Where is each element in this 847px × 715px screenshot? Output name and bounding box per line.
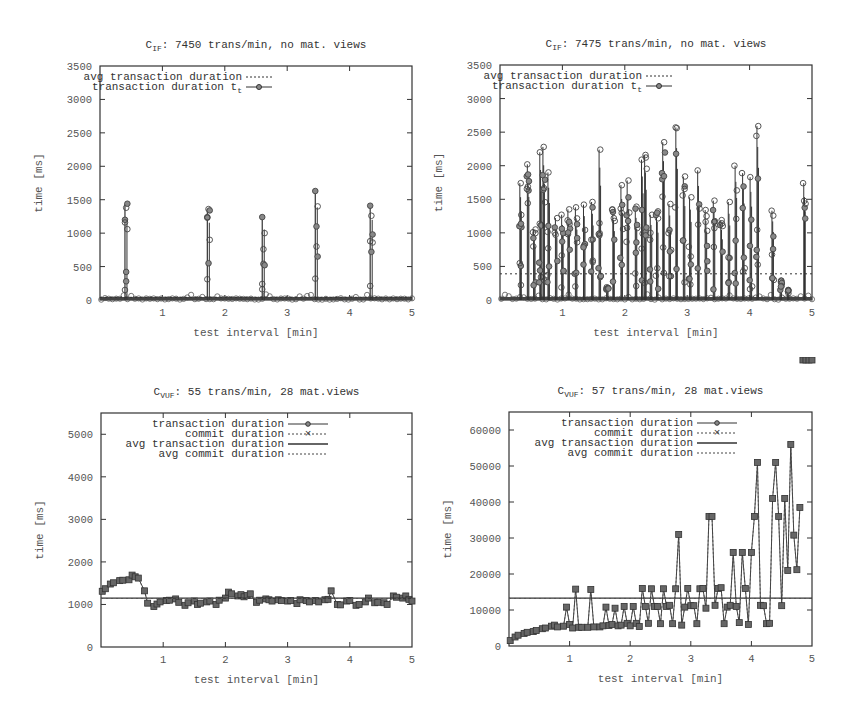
data-point	[644, 225, 650, 231]
x-axis-label: test interval [min]	[194, 674, 319, 686]
chart-top-left: CIF: 7450 trans/min, no mat. views050010…	[0, 0, 423, 357]
data-point	[740, 205, 746, 211]
chart-title: CVUF: 55 trans/min, 28 mat.views	[154, 386, 360, 400]
data-point	[531, 282, 537, 288]
plot-bottom-right: CVUF: 57 trans/min, 28 mat.views01000020…	[423, 357, 847, 715]
y-tick-label: 500	[73, 262, 92, 274]
data-point	[526, 178, 532, 184]
x-tick-label: 1	[160, 654, 166, 666]
data-point	[639, 585, 645, 591]
data-point	[694, 621, 700, 627]
data-point	[581, 245, 587, 251]
data-point	[733, 238, 739, 244]
legend-label: transaction duration tt	[492, 80, 642, 94]
data-point	[647, 279, 653, 285]
data-point	[540, 172, 546, 178]
data-point	[308, 292, 313, 297]
data-point	[802, 205, 808, 211]
data-point	[733, 603, 739, 609]
y-tick-label: 0	[486, 295, 492, 307]
x-tick-label: 5	[809, 653, 815, 665]
data-point	[325, 596, 331, 602]
data-point	[662, 150, 668, 156]
data-point	[123, 269, 129, 275]
data-point	[590, 199, 596, 205]
plot-bottom-left: CVUF: 55 trans/min, 28 mat.views01000200…	[0, 357, 423, 715]
data-point	[306, 599, 312, 605]
data-point	[647, 267, 653, 273]
plot-area	[99, 572, 415, 609]
legend-label: avg commit duration	[568, 447, 693, 459]
data-point	[661, 139, 667, 145]
x-tick-label: 4	[748, 653, 754, 665]
data-point	[709, 513, 715, 519]
data-point	[573, 586, 579, 592]
data-point	[797, 504, 803, 510]
data-point	[695, 266, 701, 272]
data-point	[712, 198, 718, 204]
data-point	[642, 603, 648, 609]
data-point	[773, 459, 779, 465]
data-point	[619, 182, 625, 188]
data-point	[384, 601, 390, 607]
data-point	[261, 246, 267, 252]
data-point	[552, 225, 558, 231]
data-point	[730, 549, 736, 555]
data-point	[745, 621, 751, 627]
data-point	[710, 207, 716, 213]
data-point	[742, 585, 748, 591]
data-point	[369, 213, 375, 219]
data-point	[654, 603, 660, 609]
y-tick-label: 20000	[469, 569, 501, 581]
data-point	[645, 620, 651, 626]
data-point	[120, 577, 126, 583]
data-point	[670, 621, 676, 627]
plot-top-right: CIF: 7475 trans/min, no mat. views050010…	[423, 0, 847, 357]
data-point	[755, 123, 761, 129]
data-point	[667, 602, 673, 608]
y-axis-label: time [ms]	[33, 153, 45, 212]
y-axis-label: time [ms]	[433, 153, 445, 212]
plot-area	[499, 123, 815, 302]
data-point	[673, 151, 679, 157]
data-point	[680, 193, 686, 199]
data-point	[800, 180, 806, 186]
y-tick-label: 500	[473, 261, 492, 273]
x-tick-label: 3	[684, 307, 690, 319]
data-point	[125, 201, 131, 207]
y-tick-label: 40000	[469, 497, 501, 509]
legend-swatch-marker	[715, 421, 720, 426]
legend-swatch-cross: ×	[714, 427, 721, 439]
data-point	[356, 601, 362, 607]
data-point	[573, 205, 579, 211]
data-point	[627, 623, 633, 629]
x-tick-label: 1	[159, 307, 165, 319]
x-tick-label: 5	[409, 654, 415, 666]
data-point	[733, 281, 739, 287]
data-point	[785, 567, 791, 573]
data-point	[654, 210, 660, 216]
y-tick-label: 5000	[68, 429, 93, 441]
x-tick-label: 4	[746, 307, 752, 319]
chart-top-right: CIF: 7475 trans/min, no mat. views050010…	[423, 0, 847, 357]
data-point	[189, 292, 194, 297]
data-point	[606, 286, 612, 292]
data-point	[609, 621, 615, 627]
y-tick-label: 1000	[68, 599, 93, 611]
data-point	[518, 221, 524, 227]
data-point	[315, 254, 321, 260]
data-point	[718, 585, 724, 591]
data-point	[316, 599, 322, 605]
y-tick-label: 2500	[67, 128, 92, 140]
data-point	[619, 262, 625, 268]
data-point	[566, 207, 572, 213]
data-point	[590, 205, 596, 211]
x-tick-label: 2	[622, 307, 628, 319]
y-tick-label: 0	[87, 642, 93, 654]
data-point	[770, 213, 776, 219]
data-point	[747, 277, 753, 283]
plot-area	[99, 188, 415, 302]
legend-swatch-cross: ×	[305, 428, 312, 440]
data-point	[262, 262, 268, 268]
y-tick-label: 1500	[467, 194, 492, 206]
